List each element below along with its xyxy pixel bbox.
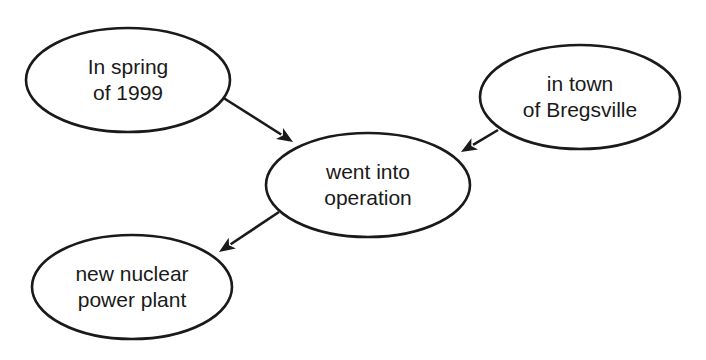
node-label-line-1: new nuclear (75, 262, 188, 285)
concept-diagram: In spring of 1999 in town of Bregsville … (0, 0, 706, 360)
edge-location-to-event (461, 130, 498, 152)
arrowhead-icon (276, 128, 293, 142)
edge-line (222, 97, 281, 135)
arrowhead-icon (219, 238, 236, 252)
node-time: In spring of 1999 (26, 28, 230, 132)
node-event: went into operation (266, 133, 470, 237)
nodes-layer: In spring of 1999 in town of Bregsville … (26, 28, 680, 339)
node-ellipse (32, 235, 232, 339)
node-label-line-1: in town (547, 72, 614, 95)
edge-time-to-event (222, 97, 293, 142)
node-ellipse (266, 133, 470, 237)
node-ellipse (26, 28, 230, 132)
node-label-line-2: of Bregsville (523, 98, 637, 121)
node-label-line-2: power plant (78, 288, 187, 311)
node-label-line-1: In spring (88, 55, 169, 78)
node-label-line-2: of 1999 (93, 81, 163, 104)
node-location: in town of Bregsville (480, 45, 680, 149)
edge-line (231, 212, 279, 244)
arrowhead-icon (461, 138, 478, 152)
edge-line (473, 130, 498, 145)
node-ellipse (480, 45, 680, 149)
node-label-line-2: operation (324, 186, 412, 209)
edge-event-to-subject (219, 212, 279, 252)
node-subject: new nuclear power plant (32, 235, 232, 339)
node-label-line-1: went into (325, 160, 410, 183)
